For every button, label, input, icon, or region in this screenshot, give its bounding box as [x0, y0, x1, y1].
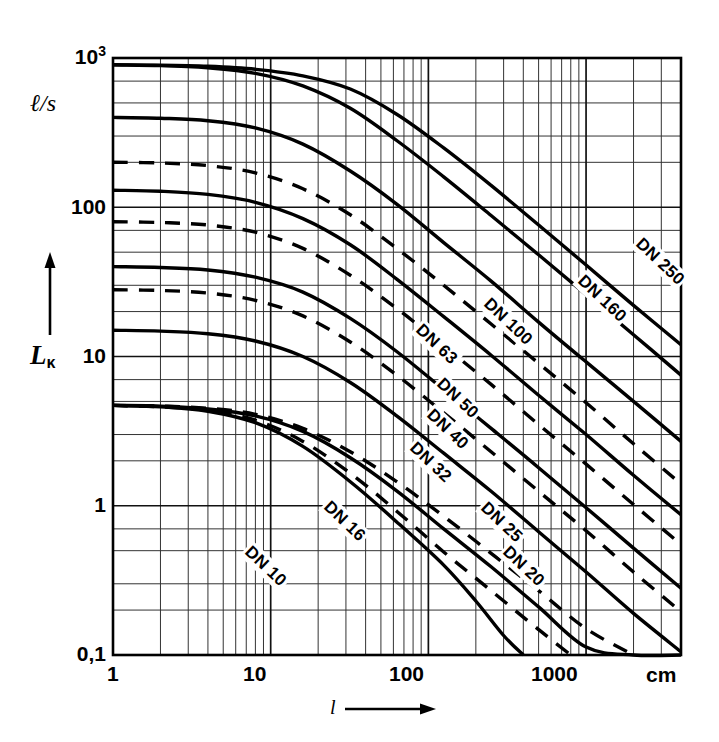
- y-axis-title-subscript: κ: [47, 354, 56, 371]
- y-unit-label: ℓ/s: [30, 90, 56, 117]
- y-tick-0.1: 0,1: [14, 643, 106, 664]
- x-tick-100: 100: [389, 663, 424, 684]
- data-curves: [113, 65, 681, 656]
- y-tick-1000: 103: [24, 44, 106, 67]
- curve-dn-50: [113, 267, 681, 589]
- x-tick-1: 1: [107, 663, 119, 684]
- curve-dn-160: [113, 65, 681, 375]
- x-tick-1000: 1000: [531, 663, 578, 684]
- x-axis-title: l: [330, 696, 336, 719]
- y-tick-1: 1: [24, 494, 106, 515]
- x-tick-10: 10: [243, 663, 266, 684]
- curve-dn-160-dashed: [113, 162, 681, 484]
- curve-dn-25: [113, 405, 634, 655]
- x-unit-label: cm: [646, 663, 676, 687]
- log-log-chart: 103 100 10 1 0,1 1 10 100 1000 cm ℓ/s Lκ…: [0, 0, 719, 742]
- y-axis-title: Lκ: [30, 340, 55, 372]
- curve-dn-40: [113, 290, 681, 612]
- y-tick-100: 100: [24, 196, 106, 217]
- major-gridlines: [113, 58, 681, 655]
- chart-plot-area: [0, 0, 719, 742]
- y-axis-title-symbol: L: [30, 340, 47, 370]
